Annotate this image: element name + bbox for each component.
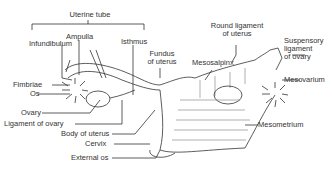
uterus-diagram-drawing — [0, 0, 332, 171]
label-round-ligament-line2: of uterus — [207, 30, 267, 38]
label-os: Os — [30, 90, 40, 98]
label-mesovarium: Mesovarium — [284, 76, 325, 84]
label-fimbriae: Fimbriae — [13, 81, 42, 89]
label-fundus-line2: of uterus — [142, 58, 182, 66]
label-mesosalpinx: Mesosalpinx — [192, 59, 234, 67]
label-external-os: External os — [71, 154, 109, 162]
label-body-of-uterus: Body of uterus — [61, 130, 109, 138]
label-ligament-of-ovary: Ligament of ovary — [4, 120, 64, 128]
label-cervix: Cervix — [85, 140, 106, 148]
label-ovary: Ovary — [21, 109, 41, 117]
label-suspensory-line3: of ovary — [284, 53, 311, 61]
label-uterine-tube: Uterine tube — [60, 11, 120, 19]
label-infundibulum: Infundibulum — [29, 40, 72, 48]
label-mesometrium: Mesometrium — [258, 121, 303, 129]
label-isthmus: Isthmus — [121, 38, 147, 46]
uterine-tube-bracket — [32, 24, 144, 30]
